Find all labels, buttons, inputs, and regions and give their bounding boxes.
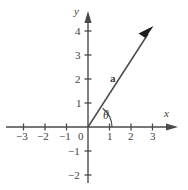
y-axis-label: y bbox=[74, 6, 79, 17]
y-tick-label-4: 4 bbox=[75, 26, 81, 37]
y-axis-arrowhead bbox=[84, 11, 91, 23]
y-tick-label-minus1: −1 bbox=[68, 146, 80, 157]
vector-a-arrowhead bbox=[139, 26, 154, 38]
y-tick-label-3: 3 bbox=[75, 50, 81, 61]
vector-a-shaft bbox=[88, 34, 148, 127]
vector-a-label: a bbox=[110, 73, 116, 84]
angle-theta-label: θ bbox=[103, 109, 109, 121]
x-tick-label-minus3: −3 bbox=[16, 131, 28, 142]
x-axis-label: x bbox=[164, 108, 169, 119]
coordinate-plane-svg bbox=[0, 0, 188, 190]
vector-diagram: y x 0 −3 −2 −1 1 2 3 4 3 2 1 −1 −2 a θ bbox=[0, 0, 188, 190]
origin-label: 0 bbox=[78, 131, 84, 142]
x-tick-label-minus2: −2 bbox=[37, 131, 49, 142]
x-tick-label-minus1: −1 bbox=[59, 131, 71, 142]
y-tick-label-minus2: −2 bbox=[68, 170, 80, 181]
x-axis-arrowhead bbox=[166, 123, 178, 130]
y-tick-label-2: 2 bbox=[75, 74, 81, 85]
y-tick-label-1: 1 bbox=[76, 98, 82, 109]
x-tick-label-3: 3 bbox=[150, 131, 156, 142]
x-tick-label-1: 1 bbox=[107, 131, 113, 142]
x-tick-label-2: 2 bbox=[128, 131, 134, 142]
